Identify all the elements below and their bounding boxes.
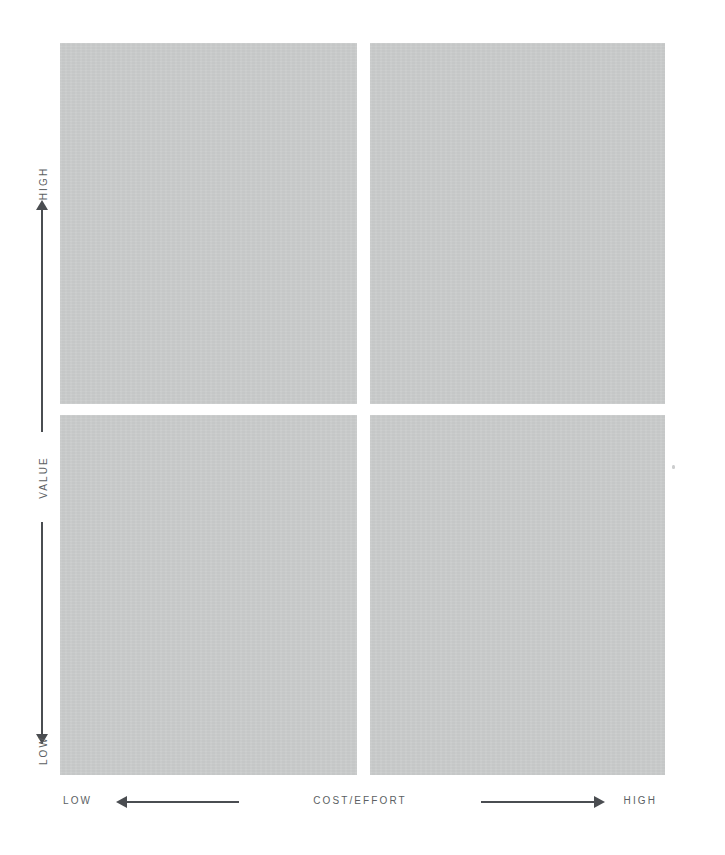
value-axis-line-upper — [41, 208, 43, 432]
arrow-right-icon — [594, 796, 605, 808]
value-axis-low-label: LOW — [38, 736, 49, 765]
value-axis-high-label: HIGH — [38, 167, 49, 200]
quadrant-top-left-high-value-low-cost[interactable] — [60, 43, 357, 404]
quadrant-top-right-high-value-high-cost[interactable] — [370, 43, 665, 404]
quadrant-bottom-right-low-value-high-cost[interactable] — [370, 415, 665, 775]
scan-speck — [672, 465, 675, 469]
quadrant-grid — [60, 43, 665, 775]
cost-effort-axis: LOW COST/EFFORT HIGH — [60, 792, 660, 818]
cost-axis-title: COST/EFFORT — [313, 795, 406, 806]
cost-axis-low-label: LOW — [63, 795, 92, 806]
cost-axis-line-right — [481, 801, 594, 803]
cost-axis-line-left — [126, 801, 239, 803]
value-axis: HIGH VALUE LOW — [26, 150, 60, 775]
value-axis-title: VALUE — [38, 456, 49, 499]
prioritization-matrix: HIGH VALUE LOW LOW COST/EFFORT HIGH — [0, 0, 725, 855]
value-axis-line-lower — [41, 522, 43, 744]
cost-axis-high-label: HIGH — [624, 795, 657, 806]
quadrant-bottom-left-low-value-low-cost[interactable] — [60, 415, 357, 775]
